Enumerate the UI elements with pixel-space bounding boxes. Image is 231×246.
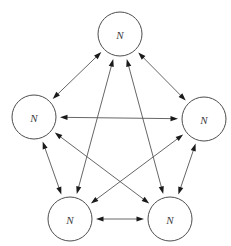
edge-line [128,63,162,190]
edge-right-to-bottom-left [91,135,183,204]
arrowhead-to-bottom-right [137,216,145,221]
arrowhead-to-bottom-left [76,186,81,194]
network-diagram: NNNNN [0,0,231,246]
arrowhead-to-left [60,115,68,120]
arrowhead-to-right [191,144,196,152]
edge-left-to-bottom-left [43,142,62,195]
edge-top-to-left [53,52,102,99]
edge-top-to-bottom-left [76,59,114,194]
arrowhead-to-bottom-left [91,197,99,204]
edge-line [58,135,146,201]
node-bottom-right[interactable]: N [148,197,192,241]
arrowhead-to-left [55,133,63,140]
arrowhead-to-left [43,142,48,150]
arrowhead-to-bottom-right [159,186,164,194]
edge-line [94,137,180,201]
node-layer: NNNNN [12,12,226,241]
node-label: N [65,214,74,226]
arrowhead-to-bottom-left [56,187,61,195]
arrowhead-to-bottom-right [142,197,150,204]
node-label: N [199,114,208,126]
node-right[interactable]: N [182,97,226,141]
edge-line [56,55,99,96]
edge-line [180,148,195,191]
edge-layer [43,52,196,222]
node-bottom-left[interactable]: N [48,197,92,241]
node-label: N [165,214,174,226]
edge-left-to-bottom-right [55,133,149,204]
node-label: N [115,29,124,41]
node-top[interactable]: N [98,12,142,56]
edge-right-to-bottom-right [178,144,195,195]
edge-line [78,63,112,190]
arrowhead-to-top [126,59,131,67]
arrowhead-to-bottom-right [178,186,183,194]
edge-bottom-left-to-bottom-right [96,216,144,221]
edge-line [64,117,174,118]
node-label: N [29,112,38,124]
edge-top-to-bottom-right [126,59,164,194]
edge-left-to-right [60,115,178,121]
arrowhead-to-right [170,116,178,121]
edge-line [141,55,183,97]
graph-svg: NNNNN [0,0,231,246]
arrowhead-to-top [109,59,114,67]
node-left[interactable]: N [12,95,56,139]
arrowhead-to-right [176,135,184,142]
arrowhead-to-bottom-left [96,216,104,221]
edge-line [44,145,60,190]
edge-top-to-right [138,52,185,100]
